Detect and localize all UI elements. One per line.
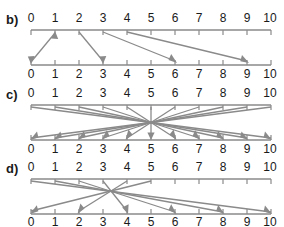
tick-label: 2 — [76, 67, 83, 81]
tick-label: 7 — [196, 215, 203, 227]
tick-label: 7 — [196, 11, 203, 25]
tick-label: 10 — [263, 67, 277, 81]
tick-label: 4 — [124, 11, 131, 25]
tick-label: 7 — [196, 67, 203, 81]
tick-label: 6 — [172, 160, 179, 174]
tick-label: 2 — [76, 142, 83, 156]
panel-d-letter: d) — [6, 161, 18, 176]
tick-label: 6 — [172, 142, 179, 156]
tick-label: 5 — [148, 160, 155, 174]
tick-label: 4 — [124, 142, 131, 156]
tick-label: 2 — [76, 11, 83, 25]
tick-label: 9 — [244, 11, 251, 25]
tick-label: 1 — [52, 67, 59, 81]
figure-background — [0, 0, 284, 227]
tick-label: 8 — [220, 160, 227, 174]
tick-label: 8 — [220, 11, 227, 25]
tick-label: 2 — [76, 160, 83, 174]
panel-c-letter: c) — [6, 87, 18, 102]
tick-label: 5 — [148, 142, 155, 156]
tick-label: 1 — [52, 142, 59, 156]
tick-label: 6 — [172, 215, 179, 227]
panel-b-letter: b) — [6, 12, 18, 27]
tick-label: 0 — [28, 67, 35, 81]
tick-label: 6 — [172, 67, 179, 81]
tick-label: 1 — [52, 160, 59, 174]
tick-label: 0 — [28, 86, 35, 100]
tick-label: 6 — [172, 86, 179, 100]
tick-label: 10 — [263, 215, 277, 227]
tick-label: 0 — [28, 160, 35, 174]
tick-label: 2 — [76, 86, 83, 100]
tick-label: 10 — [263, 11, 277, 25]
tick-label: 4 — [124, 67, 131, 81]
tick-label: 8 — [220, 142, 227, 156]
tick-label: 0 — [28, 11, 35, 25]
tick-label: 3 — [100, 160, 107, 174]
tick-label: 5 — [148, 215, 155, 227]
number-line-mapping-figure: b) 0 1 2 3 4 5 6 7 8 9 10 — [0, 0, 284, 227]
tick-label: 1 — [52, 215, 59, 227]
tick-label: 9 — [244, 160, 251, 174]
tick-label: 7 — [196, 86, 203, 100]
tick-label: 6 — [172, 11, 179, 25]
tick-label: 1 — [52, 11, 59, 25]
tick-label: 3 — [100, 11, 107, 25]
tick-label: 5 — [148, 67, 155, 81]
tick-label: 4 — [124, 86, 131, 100]
tick-label: 5 — [148, 11, 155, 25]
tick-label: 1 — [52, 86, 59, 100]
tick-label: 10 — [263, 142, 277, 156]
tick-label: 0 — [28, 142, 35, 156]
tick-label: 10 — [263, 86, 277, 100]
tick-label: 9 — [244, 86, 251, 100]
tick-label: 9 — [244, 67, 251, 81]
tick-label: 4 — [124, 215, 131, 227]
tick-label: 2 — [76, 215, 83, 227]
tick-label: 0 — [28, 215, 35, 227]
tick-label: 9 — [244, 142, 251, 156]
tick-label: 3 — [100, 67, 107, 81]
tick-label: 7 — [196, 142, 203, 156]
tick-label: 3 — [100, 86, 107, 100]
tick-label: 4 — [124, 160, 131, 174]
tick-label: 3 — [100, 142, 107, 156]
tick-label: 8 — [220, 86, 227, 100]
tick-label: 8 — [220, 215, 227, 227]
tick-label: 3 — [100, 215, 107, 227]
tick-label: 5 — [148, 86, 155, 100]
tick-label: 8 — [220, 67, 227, 81]
tick-label: 10 — [263, 160, 277, 174]
tick-label: 7 — [196, 160, 203, 174]
tick-label: 9 — [244, 215, 251, 227]
